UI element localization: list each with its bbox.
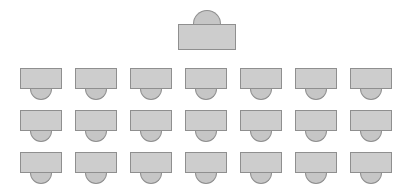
student-desk [75, 68, 117, 89]
student-desk [75, 110, 117, 131]
student-chair-icon [85, 89, 107, 100]
student-chair-icon [360, 173, 382, 184]
student-desk [20, 110, 62, 131]
student-chair-icon [85, 131, 107, 142]
student-chair-icon [30, 131, 52, 142]
student-chair-icon [250, 173, 272, 184]
student-chair-icon [30, 89, 52, 100]
student-desk [185, 152, 227, 173]
student-desk [240, 110, 282, 131]
seating-chart-canvas [0, 0, 414, 186]
student-chair-icon [140, 89, 162, 100]
student-chair-icon [360, 131, 382, 142]
student-chair-icon [195, 173, 217, 184]
student-chair-icon [305, 89, 327, 100]
student-desk [185, 68, 227, 89]
student-desk [130, 68, 172, 89]
student-chair-icon [195, 131, 217, 142]
student-desk [350, 110, 392, 131]
student-chair-icon [195, 89, 217, 100]
student-chair-icon [250, 131, 272, 142]
student-chair-icon [30, 173, 52, 184]
student-desk [350, 152, 392, 173]
student-desk [130, 152, 172, 173]
student-chair-icon [250, 89, 272, 100]
student-chair-icon [305, 131, 327, 142]
student-chair-icon [85, 173, 107, 184]
student-desk [130, 110, 172, 131]
student-chair-icon [140, 131, 162, 142]
student-desk [20, 152, 62, 173]
student-desk [75, 152, 117, 173]
student-desk [295, 152, 337, 173]
teacher-chair-icon [193, 10, 221, 24]
student-chair-icon [140, 173, 162, 184]
teacher-desk [178, 24, 236, 50]
student-chair-icon [360, 89, 382, 100]
student-desk [240, 68, 282, 89]
student-desk [350, 68, 392, 89]
student-chair-icon [305, 173, 327, 184]
student-desk [185, 110, 227, 131]
student-desk [20, 68, 62, 89]
student-desk [295, 110, 337, 131]
student-desk [240, 152, 282, 173]
student-desk [295, 68, 337, 89]
